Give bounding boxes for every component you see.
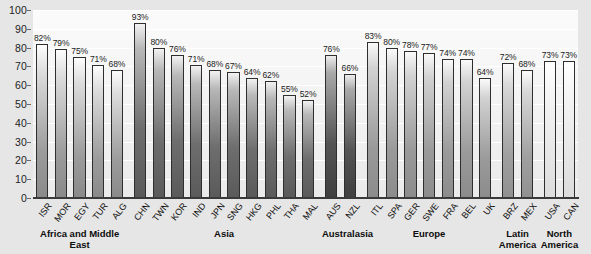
bar-slot: 80% [386,10,398,198]
bar[interactable] [265,81,277,198]
bar[interactable] [227,72,239,198]
x-axis-tick-label: SNG [225,201,245,223]
bar-value-label: 80% [383,37,400,47]
bar-value-label: 67% [225,61,242,71]
bar-value-label: 66% [342,63,359,73]
bar[interactable] [563,61,575,198]
x-axis-tick-label: GER [402,201,422,223]
bar-value-label: 52% [300,89,317,99]
x-axis-tick-label: HKG [244,201,264,223]
bar-value-label: 71% [90,54,107,64]
bar-slot: 82% [36,10,48,198]
bar-value-label: 80% [150,37,167,47]
bar-slot: 55% [283,10,295,198]
bar[interactable] [171,55,183,198]
y-axis-tick-label: 70 [15,60,27,72]
bar[interactable] [190,65,202,198]
x-axis-tick-label: MOR [52,201,73,224]
bar[interactable] [73,57,85,198]
y-axis-tick-label: 10 [15,173,27,185]
bar[interactable] [153,48,165,198]
bar-slot: 76% [171,10,183,198]
bar-value-label: 68% [206,59,223,69]
bar[interactable] [209,70,221,198]
bar-slot: 71% [190,10,202,198]
x-axis-tick-label: TWN [150,201,171,223]
bar-slot: 72% [502,10,514,198]
bar[interactable] [302,100,314,198]
bar[interactable] [92,65,104,198]
bar-value-label: 74% [439,48,456,58]
bar-value-label: 93% [132,12,149,22]
bar[interactable] [544,61,556,198]
x-axis-tick-label: SPA [385,201,404,221]
bar-value-label: 68% [518,59,535,69]
bar[interactable] [404,51,416,198]
bar-value-label: 74% [458,48,475,58]
bar-slot: 77% [423,10,435,198]
bar-value-label: 64% [244,67,261,77]
x-axis-tick-label: ITL [369,201,385,217]
y-axis-tick-mark [27,160,31,161]
bar-value-label: 83% [365,31,382,41]
y-axis-tick-mark [27,142,31,143]
bar-value-label: 76% [169,44,186,54]
bar-value-label: 73% [560,50,577,60]
bar[interactable] [36,44,48,198]
bar[interactable] [55,49,67,198]
x-axis-tick-label: FRA [441,201,460,221]
bar-value-label: 78% [402,40,419,50]
x-axis-tick-label: IND [191,201,208,219]
y-axis-tick-label: 80 [15,42,27,54]
x-axis-tick-label: USA [543,201,562,222]
bar[interactable] [502,63,514,198]
y-axis-tick-label: 40 [15,117,27,129]
y-axis-tick-mark [27,179,31,180]
group-label: Australasia [322,228,359,239]
bar[interactable] [134,23,146,198]
x-axis-tick-label: SWE [420,201,441,223]
bar[interactable] [325,55,337,198]
y-axis-tick-mark [27,66,31,67]
group-label: NorthAmerica [541,228,578,250]
bar-value-label: 82% [34,33,51,43]
x-axis-tick-label: EGY [72,201,92,222]
bar[interactable] [423,53,435,198]
bar[interactable] [442,59,454,198]
y-axis-tick-label: 30 [15,136,27,148]
bar-slot: 71% [92,10,104,198]
bar[interactable] [111,70,123,198]
bar-slot: 74% [442,10,454,198]
bar-slot: 73% [544,10,556,198]
x-axis-tick-label: PHL [264,201,283,221]
x-axis-tick-label: THA [282,201,301,221]
bar-slot: 64% [479,10,491,198]
bar[interactable] [460,59,472,198]
bar-slot: 79% [55,10,67,198]
bar[interactable] [283,95,295,198]
bar-value-label: 71% [188,54,205,64]
bar[interactable] [479,78,491,198]
x-axis-tick-label: NZL [343,201,361,221]
plot-area: 82%79%75%71%68%93%80%76%71%68%67%64%62%5… [33,10,578,198]
bar-value-label: 79% [53,38,70,48]
bar-slot: 68% [521,10,533,198]
bar-value-label: 55% [281,84,298,94]
bar-slot: 73% [563,10,575,198]
bar[interactable] [521,70,533,198]
bar[interactable] [344,74,356,198]
group-label: LatinAmerica [499,228,536,250]
group-label: Africa and Middle East [33,228,126,250]
bar-series: 82%79%75%71%68%93%80%76%71%68%67%64%62%5… [33,10,578,198]
x-axis-tick-label: BEL [460,201,478,221]
bar[interactable] [386,48,398,198]
bar-slot: 68% [209,10,221,198]
x-axis-tick-label: JPN [208,201,226,221]
y-axis-tick-label: 100 [9,4,27,16]
bar[interactable] [246,78,258,198]
bar-value-label: 77% [421,42,438,52]
bar[interactable] [367,42,379,198]
bar-slot: 74% [460,10,472,198]
bar-chart: 82%79%75%71%68%93%80%76%71%68%67%64%62%5… [0,0,591,254]
x-axis-tick-label: ALG [110,201,129,221]
